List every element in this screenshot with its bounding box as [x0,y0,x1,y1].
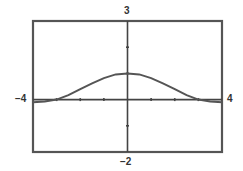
ymax-label: 3 [124,6,130,16]
axes [33,21,222,152]
graph-window [0,0,243,171]
ymin-label: −2 [120,157,131,167]
xmin-label: −4 [15,94,26,104]
xmax-label: 4 [227,94,233,104]
